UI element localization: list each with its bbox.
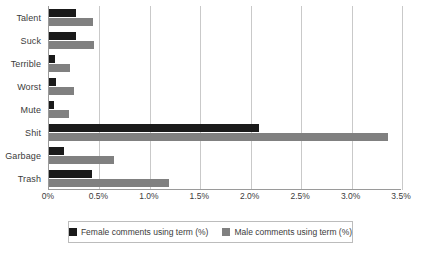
plot-area	[48, 6, 401, 190]
bar-male	[49, 133, 388, 141]
bar-female	[49, 55, 55, 63]
bar-female	[49, 170, 92, 178]
legend-entry[interactable]: Female comments using term (%)	[69, 227, 209, 237]
bar-male	[49, 64, 70, 72]
bar-male	[49, 41, 94, 49]
bar-group	[49, 75, 401, 98]
bar-chart: TalentSuckTerribleWorstMuteShitGarbageTr…	[0, 0, 421, 253]
bar-female	[49, 9, 76, 17]
bar-male	[49, 87, 74, 95]
bar-group	[49, 121, 401, 144]
axis-baseline	[48, 189, 401, 190]
category-label: Worst	[0, 75, 45, 98]
legend-label: Male comments using term (%)	[234, 227, 352, 237]
bar-male	[49, 18, 93, 26]
x-tick-label: 1.0%	[139, 191, 158, 201]
plot-wrapper: TalentSuckTerribleWorstMuteShitGarbageTr…	[0, 0, 421, 200]
x-tick-label: 0%	[42, 191, 54, 201]
bar-male	[49, 110, 69, 118]
bar-female	[49, 124, 259, 132]
category-label: Garbage	[0, 144, 45, 167]
legend-swatch-icon	[222, 228, 230, 236]
category-label: Talent	[0, 6, 45, 29]
x-tick-label: 2.5%	[290, 191, 309, 201]
category-axis: TalentSuckTerribleWorstMuteShitGarbageTr…	[0, 6, 45, 190]
chart-legend: Female comments using term (%)Male comme…	[68, 221, 353, 243]
bar-female	[49, 78, 56, 86]
bar-group	[49, 144, 401, 167]
category-label: Trash	[0, 167, 45, 190]
gridline	[402, 6, 403, 190]
x-tick-label: 1.5%	[190, 191, 209, 201]
legend-label: Female comments using term (%)	[81, 227, 209, 237]
bar-group	[49, 98, 401, 121]
x-tick-label: 2.0%	[240, 191, 259, 201]
x-tick-label: 0.5%	[89, 191, 108, 201]
bar-group	[49, 167, 401, 190]
category-label: Terrible	[0, 52, 45, 75]
bar-female	[49, 101, 54, 109]
bar-female	[49, 147, 64, 155]
bar-male	[49, 156, 114, 164]
bar-male	[49, 179, 169, 187]
legend-swatch-icon	[69, 228, 77, 236]
bar-group	[49, 52, 401, 75]
bar-group	[49, 6, 401, 29]
category-label: Suck	[0, 29, 45, 52]
category-label: Mute	[0, 98, 45, 121]
bar-group	[49, 29, 401, 52]
value-axis: 0%0.5%1.0%1.5%2.0%2.5%3.0%3.5%	[48, 191, 401, 205]
legend-entry[interactable]: Male comments using term (%)	[222, 227, 352, 237]
x-tick-label: 3.5%	[391, 191, 410, 201]
bar-rows	[49, 6, 401, 190]
x-tick-label: 3.0%	[341, 191, 360, 201]
bar-female	[49, 32, 76, 40]
category-label: Shit	[0, 121, 45, 144]
